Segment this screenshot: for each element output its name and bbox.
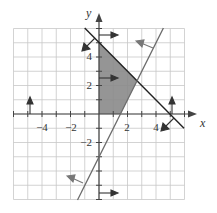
x-tick-label: −4	[36, 121, 48, 133]
x-tick-label: −2	[65, 121, 77, 133]
x-tick-label: 4	[153, 121, 159, 133]
arrow-right-icon	[111, 190, 118, 196]
x-tick-label: 2	[124, 121, 130, 133]
arrow-up-left-icon	[136, 40, 144, 47]
y-tick-label: −2	[80, 136, 92, 148]
arrow-up-left-icon	[67, 175, 75, 182]
y-axis-label: y	[85, 6, 92, 20]
y-tick-labels: 4 2 −2	[80, 50, 92, 148]
x-axis-label: x	[199, 116, 206, 130]
y-axis-arrow-icon	[96, 13, 103, 22]
x-tick-labels: −4 −2 2 4	[36, 121, 159, 133]
y-tick-label: 4	[87, 50, 93, 62]
arrow-right-icon	[111, 32, 118, 38]
x-axis-arrow-icon	[188, 111, 197, 118]
y-tick-label: 2	[87, 79, 93, 91]
graph-canvas: −4 −2 2 4 4 2 −2 x y	[0, 0, 217, 213]
